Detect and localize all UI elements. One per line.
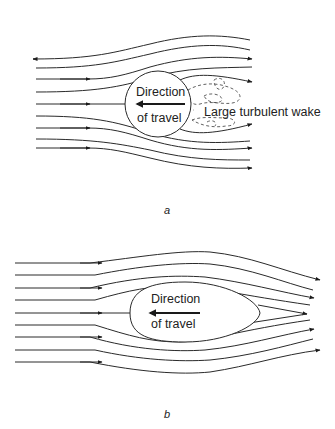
panel-a: Direction of travel Large turbulent wake… (33, 36, 321, 216)
body-label-line1-a: Direction (136, 85, 185, 99)
body-label-line2-a: of travel (137, 111, 181, 125)
wake-bottom-streamline (180, 124, 252, 133)
body-label-line2-b: of travel (151, 317, 195, 331)
tail-streamline-top (258, 305, 307, 314)
panel-b: Direction of travel b (15, 252, 320, 420)
caption-b: b (164, 408, 170, 420)
body-label-line1-b: Direction (151, 292, 200, 306)
caption-a: a (164, 204, 170, 216)
wake-label: Large turbulent wake (204, 105, 321, 119)
turbulent-wake (188, 78, 240, 126)
flow-diagram: Direction of travel Large turbulent wake… (0, 0, 335, 429)
